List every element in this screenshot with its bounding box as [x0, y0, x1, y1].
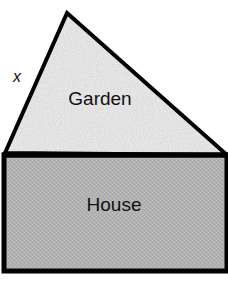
- side-length-label-x: x: [13, 68, 21, 86]
- figure-canvas: [0, 0, 228, 287]
- garden-region: [0, 0, 228, 170]
- house-label: House: [0, 194, 228, 216]
- geometry-figure: Garden House x: [0, 0, 228, 287]
- garden-label: Garden: [0, 88, 200, 110]
